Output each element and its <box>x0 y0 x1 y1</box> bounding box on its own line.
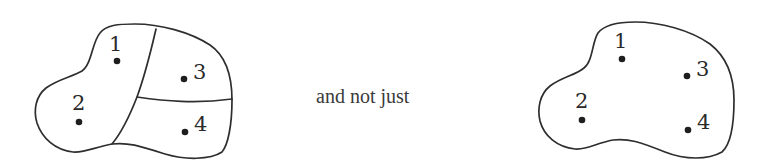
point-1-dot <box>114 58 121 65</box>
point-3-label: 3 <box>696 57 709 81</box>
point-2-dot <box>76 119 83 126</box>
left-region-outline <box>35 24 232 158</box>
point-2-label: 2 <box>575 89 588 113</box>
point-1-label: 1 <box>109 32 122 56</box>
point-4-dot <box>182 129 189 136</box>
right-figure: 1 2 3 4 <box>539 22 734 158</box>
diagram-canvas: 1 2 3 4 and not just 1 2 3 4 <box>0 0 767 168</box>
point-1-dot <box>619 56 626 63</box>
left-figure: 1 2 3 4 <box>35 24 232 158</box>
point-3-dot <box>684 73 691 80</box>
left-divider-horizontal <box>137 97 232 102</box>
right-region-outline <box>539 22 734 158</box>
point-2-label: 2 <box>72 91 85 115</box>
point-4-label: 4 <box>194 112 207 136</box>
point-4-label: 4 <box>697 110 710 134</box>
connector-text: and not just <box>316 85 410 108</box>
point-2-dot <box>579 117 586 124</box>
point-3-label: 3 <box>193 60 206 84</box>
point-1-label: 1 <box>614 29 627 53</box>
point-3-dot <box>181 76 188 83</box>
point-4-dot <box>685 127 692 134</box>
